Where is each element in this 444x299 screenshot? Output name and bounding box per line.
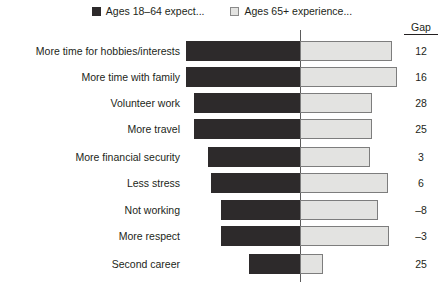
bar-ages-65-plus [300,67,397,87]
chart-row: More financial security 3 [0,144,444,170]
bar-ages-18-64 [186,67,301,87]
bar-ages-65-plus [300,147,370,167]
bar-ages-18-64 [221,226,301,246]
bar-ages-65-plus [300,200,378,220]
bar-ages-18-64 [249,254,301,274]
row-label: Less stress [0,170,180,196]
bar-ages-65-plus [300,226,389,246]
bar-ages-18-64 [194,93,301,113]
bar-ages-18-64 [208,147,301,167]
bar-ages-65-plus [300,173,388,193]
row-label: More time for hobbies/interests [0,38,180,64]
chart-row: More respect –3 [0,223,444,249]
gap-value: –8 [404,197,438,223]
light-square-icon [230,7,239,16]
gap-value: 12 [404,38,438,64]
legend-entry-ages-18-64: Ages 18–64 expect... [92,6,205,17]
gap-value: 16 [404,64,438,90]
bar-ages-65-plus [300,93,372,113]
gap-value: 3 [404,144,438,170]
gap-value: 25 [404,116,438,142]
chart-legend: Ages 18–64 expect... Ages 65+ experience… [0,2,444,20]
gap-value: 6 [404,170,438,196]
chart-row: Not working –8 [0,197,444,223]
row-label: Second career [0,251,180,277]
chart-row: Second career 25 [0,251,444,277]
row-label: More financial security [0,144,180,170]
bar-ages-18-64 [186,41,301,61]
gap-value: 25 [404,251,438,277]
bar-ages-18-64 [211,173,301,193]
chart-row: Volunteer work 28 [0,90,444,116]
gap-value: –3 [404,223,438,249]
gap-column-header: Gap [404,22,438,35]
gap-value: 28 [404,90,438,116]
legend-label-ages-18-64: Ages 18–64 expect... [106,6,205,17]
diverging-bar-chart: Ages 18–64 expect... Ages 65+ experience… [0,0,444,299]
row-label: Not working [0,197,180,223]
chart-row: Less stress 6 [0,170,444,196]
row-label: More respect [0,223,180,249]
legend-label-ages-65-plus: Ages 65+ experience... [244,6,352,17]
chart-row: More travel 25 [0,116,444,142]
row-label: More time with family [0,64,180,90]
dark-square-icon [92,7,101,16]
chart-row: More time with family 16 [0,64,444,90]
legend-entry-ages-65-plus: Ages 65+ experience... [230,6,352,17]
bar-ages-65-plus [300,119,372,139]
plot-area: More time for hobbies/interests 12 More … [0,38,444,290]
chart-row: More time for hobbies/interests 12 [0,38,444,64]
row-label: Volunteer work [0,90,180,116]
bar-ages-18-64 [194,119,301,139]
bar-ages-18-64 [221,200,301,220]
row-label: More travel [0,116,180,142]
bar-ages-65-plus [300,254,323,274]
bar-ages-65-plus [300,41,392,61]
